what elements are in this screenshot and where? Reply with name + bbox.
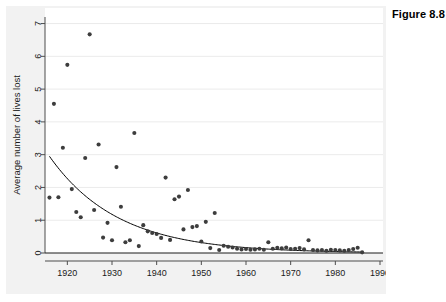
data-point (347, 248, 351, 252)
data-point (329, 248, 333, 252)
data-point (315, 248, 319, 252)
data-point (239, 247, 243, 251)
data-point (168, 238, 172, 242)
data-point (275, 246, 279, 250)
data-point (253, 247, 257, 251)
data-point (155, 232, 159, 236)
data-point (56, 195, 60, 199)
data-point (231, 245, 235, 249)
data-point (222, 244, 226, 248)
x-tick-label: 1960 (236, 268, 256, 278)
data-point (333, 248, 337, 252)
data-point (172, 197, 176, 201)
data-point (150, 231, 154, 235)
data-point (271, 247, 275, 251)
x-tick-label: 1950 (191, 268, 211, 278)
figure-caption: Figure 8.8 (392, 8, 445, 20)
data-point (226, 245, 230, 249)
data-point (235, 247, 239, 251)
data-point (177, 195, 181, 199)
data-point (244, 247, 248, 251)
data-point (132, 131, 136, 135)
data-point (351, 247, 355, 251)
data-point (360, 250, 364, 254)
data-point (88, 32, 92, 36)
y-tick-label: 3 (33, 152, 43, 157)
y-tick-label: 2 (33, 185, 43, 190)
data-point (262, 248, 266, 252)
data-point (266, 240, 270, 244)
data-point (289, 247, 293, 251)
data-point (217, 248, 221, 252)
y-tick-label: 6 (33, 54, 43, 59)
data-point (181, 227, 185, 231)
data-point (195, 224, 199, 228)
x-tick-label: 1990 (370, 268, 386, 278)
data-point (146, 229, 150, 233)
data-point (47, 196, 51, 200)
data-point (356, 246, 360, 250)
data-point (137, 244, 141, 248)
figure-container: 01234567 1920193019401950196019701980199… (0, 0, 446, 302)
data-point (128, 238, 132, 242)
data-point (110, 238, 114, 242)
y-tick-label: 0 (33, 250, 43, 255)
data-point (186, 188, 190, 192)
data-point (213, 211, 217, 215)
y-tick-label: 5 (33, 87, 43, 92)
data-point (101, 236, 105, 240)
data-point (199, 239, 203, 243)
data-point (342, 249, 346, 253)
data-point (141, 223, 145, 227)
data-point (97, 142, 101, 146)
data-point (204, 220, 208, 224)
data-point (61, 146, 65, 150)
data-point (306, 238, 310, 242)
data-point (208, 246, 212, 250)
data-point (74, 210, 78, 214)
data-point (293, 247, 297, 251)
data-point (79, 215, 83, 219)
plot-background (45, 8, 383, 253)
data-point (284, 245, 288, 249)
data-point (280, 246, 284, 250)
data-point (123, 240, 127, 244)
y-tick-label: 7 (33, 21, 43, 26)
data-point (338, 248, 342, 252)
data-point (159, 236, 163, 240)
data-point (52, 102, 56, 106)
y-axis-title: Average number of lives lost (11, 75, 22, 195)
y-tick-label: 1 (33, 218, 43, 223)
x-tick-label: 1930 (102, 268, 122, 278)
data-point (105, 221, 109, 225)
data-point (190, 225, 194, 229)
data-point (257, 247, 261, 251)
x-tick-label: 1940 (147, 268, 167, 278)
data-point (298, 246, 302, 250)
data-point (320, 248, 324, 252)
data-point (164, 176, 168, 180)
data-point (248, 248, 252, 252)
data-point (324, 249, 328, 253)
x-tick-label: 1970 (281, 268, 301, 278)
scatter-chart: 01234567 1920193019401950196019701980199… (6, 6, 386, 294)
chart-panel: 01234567 1920193019401950196019701980199… (6, 6, 386, 294)
data-point (119, 205, 123, 209)
data-point (70, 187, 74, 191)
data-point (65, 63, 69, 67)
data-point (92, 208, 96, 212)
data-point (302, 247, 306, 251)
data-point (311, 248, 315, 252)
x-tick-label: 1920 (57, 268, 77, 278)
data-point (114, 165, 118, 169)
data-point (83, 156, 87, 160)
x-tick-label: 1980 (325, 268, 345, 278)
y-tick-label: 4 (33, 119, 43, 124)
